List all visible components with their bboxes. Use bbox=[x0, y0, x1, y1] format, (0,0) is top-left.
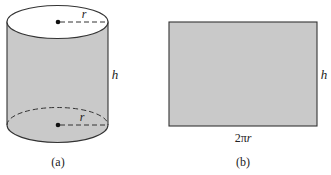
unrolled-rectangle bbox=[169, 22, 317, 126]
cylinder-height-label: h bbox=[112, 67, 119, 82]
cylinder-top-radius-label: r bbox=[82, 7, 87, 21]
cylinder-bottom-center-dot bbox=[56, 123, 61, 128]
width-label-variable: r bbox=[247, 131, 252, 145]
rectangle-height-label: h bbox=[321, 67, 328, 82]
cylinder-bottom-radius-label: r bbox=[80, 110, 85, 124]
rectangle-width-label: 2πr bbox=[235, 131, 252, 145]
rectangle-figure: h 2πr (b) bbox=[169, 22, 327, 169]
diagram-canvas: r r h (a) h 2πr (b) bbox=[0, 0, 331, 175]
cylinder-figure: r r h (a) bbox=[7, 6, 118, 170]
width-label-coefficient: 2π bbox=[235, 131, 247, 145]
caption-a: (a) bbox=[51, 155, 64, 169]
caption-b: (b) bbox=[236, 155, 250, 169]
cylinder-top-center-dot bbox=[56, 20, 61, 25]
